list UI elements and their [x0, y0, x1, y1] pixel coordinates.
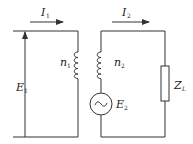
label-n2: n 2	[114, 56, 125, 69]
svg-text:2: 2	[124, 104, 128, 111]
label-i1: I 1	[40, 6, 50, 19]
svg-text:L: L	[181, 85, 186, 92]
label-e1: E 1	[15, 81, 28, 94]
svg-text:Z: Z	[173, 79, 182, 92]
circuit-diagram: I 1 I 2 E 1 n 1 n 2 E 2 Z L	[0, 0, 193, 144]
label-zl: Z L	[173, 79, 186, 92]
ac-source-icon	[90, 93, 112, 115]
secondary-circuit	[101, 31, 165, 137]
secondary-coil-icon	[97, 52, 101, 79]
primary-coil-icon	[74, 52, 78, 79]
label-n1: n 1	[60, 56, 71, 69]
svg-text:1: 1	[46, 12, 50, 19]
svg-text:1: 1	[67, 62, 71, 69]
svg-text:E: E	[15, 81, 24, 94]
load-impedance-icon	[161, 66, 169, 101]
svg-text:1: 1	[24, 87, 28, 94]
label-e2: E 2	[115, 98, 128, 111]
svg-text:E: E	[115, 98, 124, 111]
label-i2: I 2	[121, 6, 131, 19]
svg-text:2: 2	[127, 12, 131, 19]
svg-text:2: 2	[121, 62, 125, 69]
